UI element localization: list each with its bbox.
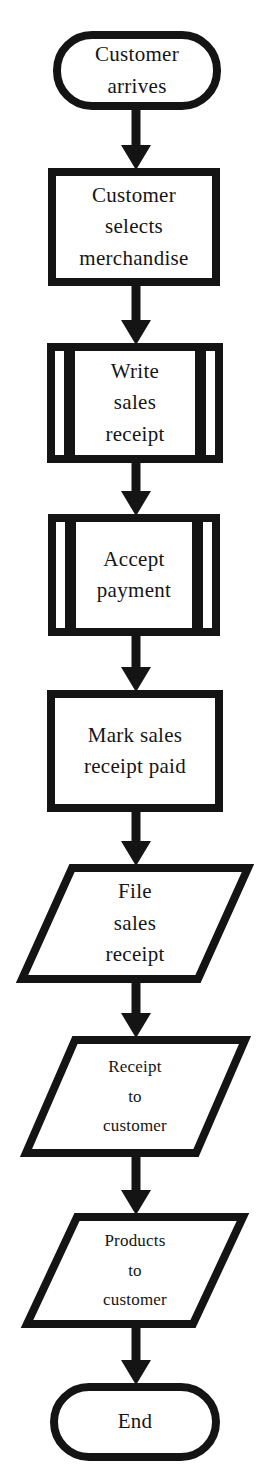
process-select-merchandise-shape	[52, 172, 216, 282]
flow-arrow-4	[121, 634, 151, 692]
predefined-right-bar	[195, 351, 206, 455]
io-file-sales-receipt-shape	[22, 868, 248, 979]
terminal-end-shape	[54, 1387, 216, 1457]
io-products-to-customer-shape	[27, 1217, 243, 1324]
predefined-right-bar	[192, 522, 203, 628]
predefined-left-bar	[64, 351, 75, 455]
process-mark-receipt-paid-shape	[51, 694, 219, 808]
io-receipt-to-customer-shape	[26, 1040, 245, 1153]
flow-arrow-2	[121, 284, 151, 345]
flow-arrow-6	[121, 981, 151, 1038]
flow-arrow-8	[121, 1326, 151, 1385]
predefined-write-sales-receipt-shape	[51, 347, 219, 459]
flowchart-shapes	[0, 0, 264, 1483]
predefined-accept-payment-shape	[52, 518, 216, 632]
flow-arrow-5	[121, 810, 151, 866]
flow-arrow-1	[121, 108, 151, 170]
flowchart: Customer arrives Customer selects mercha…	[0, 0, 264, 1483]
predefined-left-bar	[65, 522, 76, 628]
flow-arrow-7	[121, 1155, 151, 1215]
terminal-start-shape	[57, 35, 217, 106]
flow-arrow-3	[121, 461, 151, 516]
